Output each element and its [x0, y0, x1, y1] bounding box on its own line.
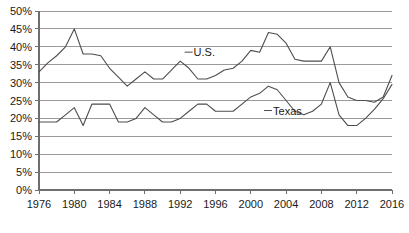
y-axis-label-30: 30% [10, 77, 32, 89]
line-chart: 0%5%10%15%20%25%30%35%40%45%50% 19761980… [0, 0, 409, 233]
y-axis-label-20: 20% [10, 112, 32, 124]
y-axis-label-50: 50% [10, 5, 32, 17]
y-axis-label-35: 35% [10, 59, 32, 71]
axis-ticks [35, 11, 392, 194]
series-annotations: U.S.Texas [185, 46, 303, 116]
x-axis-label-1980: 1980 [62, 198, 86, 210]
x-axis-label-1992: 1992 [168, 198, 192, 210]
x-axis-label-1996: 1996 [203, 198, 227, 210]
y-axis-label-45: 45% [10, 23, 32, 35]
x-axis-label-2008: 2008 [309, 198, 333, 210]
y-axis-label-0: 0% [16, 184, 32, 196]
series-label-us: U.S. [194, 46, 215, 58]
series-line-texas [39, 83, 392, 126]
x-axis-label-2000: 2000 [239, 198, 263, 210]
y-axis-label-25: 25% [10, 95, 32, 107]
x-axis-label-2004: 2004 [274, 198, 298, 210]
x-axis-label-1984: 1984 [97, 198, 121, 210]
y-axis-label-15: 15% [10, 130, 32, 142]
series-line-us [39, 29, 392, 102]
x-axis-label-1988: 1988 [133, 198, 157, 210]
y-axis-tick-labels: 0%5%10%15%20%25%30%35%40%45%50% [10, 5, 32, 196]
y-axis-label-5: 5% [16, 166, 32, 178]
gridlines [39, 11, 392, 172]
x-axis-label-1976: 1976 [27, 198, 51, 210]
x-axis-label-2016: 2016 [380, 198, 404, 210]
series-label-texas: Texas [273, 105, 302, 117]
chart-container: 0%5%10%15%20%25%30%35%40%45%50% 19761980… [0, 0, 409, 233]
data-series [39, 29, 392, 126]
x-axis-label-2012: 2012 [344, 198, 368, 210]
x-axis-tick-labels: 1976198019841988199219962000200420082012… [27, 198, 404, 210]
y-axis-label-40: 40% [10, 41, 32, 53]
y-axis-label-10: 10% [10, 148, 32, 160]
